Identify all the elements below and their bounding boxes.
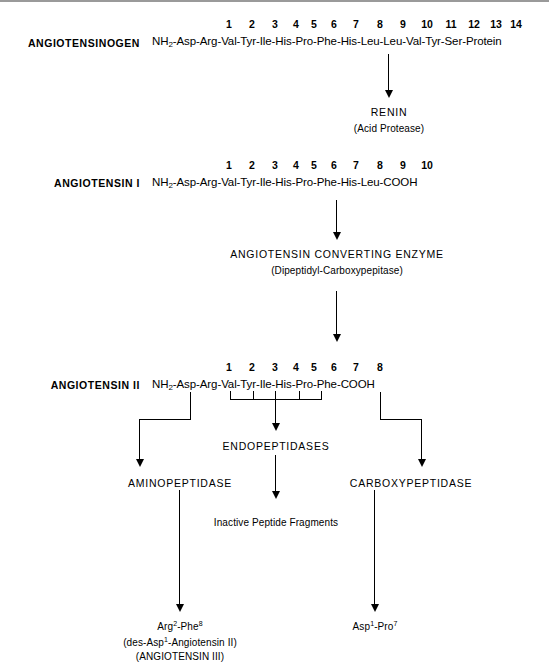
ace-to-angiotensin-ii-line — [336, 291, 337, 338]
residue: Ser — [445, 35, 463, 47]
residue-number: 11 — [445, 18, 456, 30]
residue: Tyr — [240, 176, 256, 188]
n-terminus-subscript: 2 — [168, 383, 172, 392]
endopeptidase-bracket-tick — [253, 391, 254, 400]
residue-number: 6 — [331, 159, 337, 171]
residue-number: 8 — [377, 361, 383, 373]
residue: Val — [221, 176, 236, 188]
residue-number: 4 — [293, 159, 299, 171]
residue: Tyr — [425, 35, 441, 47]
row-label-angiotensin-ii: ANGIOTENSIN II — [8, 380, 140, 391]
enzyme-subtitle-renin: (Acid Protease) — [354, 124, 424, 134]
endopeptidase-bracket-tick — [321, 391, 322, 400]
residue: Leu — [361, 35, 380, 47]
carboxypeptidase-branch-drop — [380, 392, 381, 420]
residue: Ile — [260, 35, 272, 47]
residue: Protein — [466, 35, 502, 47]
aminopeptidase-to-product-line — [179, 490, 180, 608]
dipeptide-arrowhead — [371, 604, 379, 612]
carboxypeptidase-branch-line — [421, 419, 422, 463]
residue: Asp — [177, 378, 197, 390]
row-label-angiotensinogen: ANGIOTENSINOGEN — [8, 38, 140, 49]
residue-number: 6 — [331, 18, 337, 30]
residue-number: 13 — [490, 18, 502, 30]
residue-number: 1 — [226, 18, 232, 30]
aminopeptidase-branch-horizontal — [139, 419, 191, 420]
residue-number: 3 — [272, 18, 278, 30]
n-terminus-subscript: 2 — [168, 181, 172, 190]
residue: Arg — [200, 176, 218, 188]
ace-to-angiotensin-ii-arrowhead — [333, 334, 341, 342]
residue-number: 1 — [226, 361, 232, 373]
residue: Tyr — [240, 35, 256, 47]
product-residue: -Phe — [177, 621, 199, 632]
residue: Tyr — [240, 378, 256, 390]
product-residue: -Pro — [374, 621, 393, 632]
residue-number: 2 — [249, 361, 255, 373]
aminopeptidase-arrowhead — [136, 459, 144, 467]
residue: His — [341, 35, 357, 47]
carboxypeptidase-branch-horizontal — [380, 419, 422, 420]
enzyme-label-aminopeptidase: AMINOPEPTIDASE — [128, 478, 232, 489]
row-label-angiotensin-i: ANGIOTENSIN I — [8, 178, 140, 189]
carboxypeptidase-to-product-line — [374, 490, 375, 608]
residue-number: 7 — [353, 361, 359, 373]
n-terminus-label: NH — [152, 35, 168, 47]
enzyme-label-ace: ANGIOTENSIN CONVERTING ENZYME — [230, 249, 444, 260]
residue-number: 3 — [272, 361, 278, 373]
residue-number: 8 — [377, 18, 383, 30]
residue: Phe — [317, 35, 337, 47]
number-row-angiotensin-i: 1 2 3 4 5 6 7 8 9 10 — [0, 159, 549, 171]
residue-number: 2 — [249, 18, 255, 30]
enzyme-label-carboxypeptidase: CARBOXYPEPTIDASE — [350, 478, 472, 489]
product-superscript: 8 — [199, 620, 203, 627]
residue-number: 5 — [311, 361, 317, 373]
residue: Arg — [200, 35, 218, 47]
n-terminus-label: NH — [152, 176, 168, 188]
n-terminus-subscript: 2 — [168, 40, 172, 49]
diagram-canvas: ANGIOTENSINOGEN 1 2 3 4 5 6 7 8 9 10 11 … — [0, 0, 549, 667]
inactive-fragments-arrow-line — [275, 455, 276, 495]
residue: Phe — [317, 378, 337, 390]
residue-number: 6 — [331, 361, 337, 373]
product-alias-prefix: (des-Asp — [123, 637, 164, 648]
residue: His — [341, 176, 357, 188]
number-row-angiotensinogen: 1 2 3 4 5 6 7 8 9 10 11 12 13 14 — [0, 18, 549, 30]
residue: His — [275, 176, 291, 188]
product-angiotensin-iii-line3: (ANGIOTENSIN III) — [136, 652, 224, 662]
ace-cleavage-arrowhead — [333, 232, 341, 240]
residue-number: 9 — [400, 18, 406, 30]
residue: Leu — [361, 176, 380, 188]
product-residue: Arg — [157, 621, 173, 632]
sequence-angiotensin-ii: NH2-Asp-Arg-Val-Tyr-Ile-His-Pro-Phe-COOH — [152, 379, 375, 392]
residue-number: 5 — [311, 18, 317, 30]
enzyme-subtitle-ace: (Dipeptidyl-Carboxypepitase) — [271, 266, 403, 276]
product-angiotensin-iii-line2: (des-Asp1-Angiotensin II) — [123, 636, 237, 648]
residue-number: 7 — [353, 159, 359, 171]
residue: Ile — [260, 378, 272, 390]
residue-number: 2 — [249, 159, 255, 171]
carboxypeptidase-arrowhead — [418, 459, 426, 467]
renin-cleavage-arrow-line — [388, 54, 389, 94]
ace-cleavage-arrow-line — [336, 200, 337, 236]
residue-number: 14 — [510, 18, 522, 30]
enzyme-label-renin: RENIN — [371, 107, 407, 118]
residue-number: 7 — [353, 18, 359, 30]
product-residue: Asp — [353, 621, 371, 632]
residue: Val — [221, 35, 236, 47]
residue: COOH — [341, 378, 375, 390]
residue-number: 8 — [377, 159, 383, 171]
residue: Asp — [177, 35, 197, 47]
residue-number: 5 — [311, 159, 317, 171]
angiotensin-iii-arrowhead — [176, 604, 184, 612]
n-terminus-label: NH — [152, 378, 168, 390]
product-dipeptide: Asp1-Pro7 — [353, 620, 398, 632]
residue-number: 10 — [421, 159, 433, 171]
aminopeptidase-branch-line — [139, 419, 140, 463]
renin-cleavage-arrowhead — [385, 90, 393, 98]
residue-number: 1 — [226, 159, 232, 171]
residue-number: 10 — [421, 18, 433, 30]
product-superscript: 7 — [393, 620, 397, 627]
residue: Val — [221, 378, 236, 390]
residue: Pro — [295, 378, 313, 390]
